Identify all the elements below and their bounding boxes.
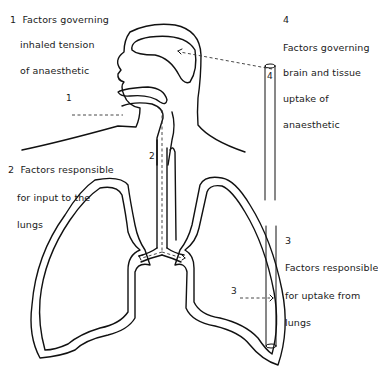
- marker-2: 2: [149, 152, 155, 161]
- flow-brain-marker-4: [180, 52, 272, 69]
- oesophagus: [170, 148, 176, 240]
- pharynx-back: [168, 112, 174, 165]
- marker-4: 4: [267, 72, 273, 81]
- lung-uptake-tube: [266, 226, 276, 348]
- nasal-passage: [118, 87, 167, 104]
- arrow-left-bronchus-icon: [139, 255, 143, 260]
- marker-1: 1: [66, 94, 72, 103]
- bronchus-left-lower: [141, 255, 162, 262]
- right-lung-inner: [185, 186, 277, 354]
- bronchus-left: [139, 248, 157, 256]
- brain-cavity: [132, 36, 196, 82]
- arrow-lung-uptake-icon: [270, 295, 273, 301]
- brain-uptake-tube: [265, 64, 275, 200]
- left-lung-inner: [40, 187, 140, 350]
- arrow-right-bronchus-icon: [182, 255, 185, 260]
- marker-3: 3: [231, 287, 237, 296]
- arrow-brain-icon: [178, 49, 182, 54]
- flow-bronchus-left: [142, 252, 162, 258]
